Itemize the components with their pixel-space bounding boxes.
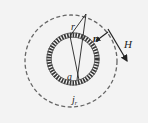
label-r: r: [71, 21, 75, 32]
label-n: n: [93, 33, 99, 44]
label-a: a: [67, 71, 72, 82]
label-h: H: [123, 38, 133, 50]
label-j-sub: r: [75, 100, 78, 106]
braided-ring: [47, 33, 99, 85]
label-j: jr: [70, 94, 78, 106]
ring-diagram: r a n H jr: [0, 0, 148, 123]
